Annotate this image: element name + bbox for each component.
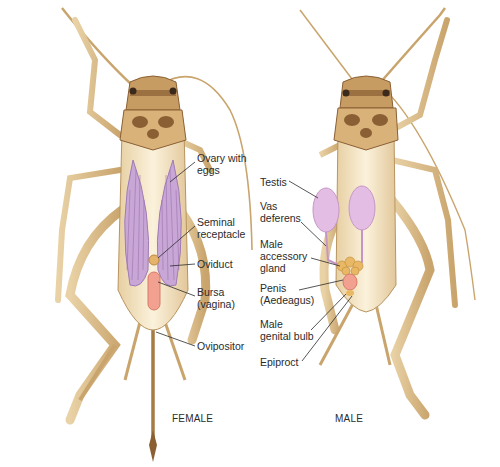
label-ovary-with-eggs: Ovary with eggs [197,152,247,176]
label-ovipositor: Ovipositor [197,340,244,352]
label-epiproct: Epiproct [260,356,299,368]
caption-male: MALE [335,413,363,424]
label-penis-aedeagus: Penis (Aedeagus) [260,282,314,306]
label-testis: Testis [260,176,287,188]
male-cricket [300,8,475,415]
caption-female: FEMALE [172,413,213,424]
label-bursa-vagina: Bursa (vagina) [197,286,235,310]
label-oviduct: Oviduct [197,258,233,270]
label-male-accessory-gland: Male accessory gland [260,238,307,274]
label-male-genital-bulb: Male genital bulb [260,318,314,342]
label-vas-deferens: Vas deferens [260,200,301,224]
label-seminal-receptacle: Seminal receptacle [197,216,245,240]
cricket-reproductive-diagram: Ovary with eggs Seminal receptacle Ovidu… [0,0,500,467]
